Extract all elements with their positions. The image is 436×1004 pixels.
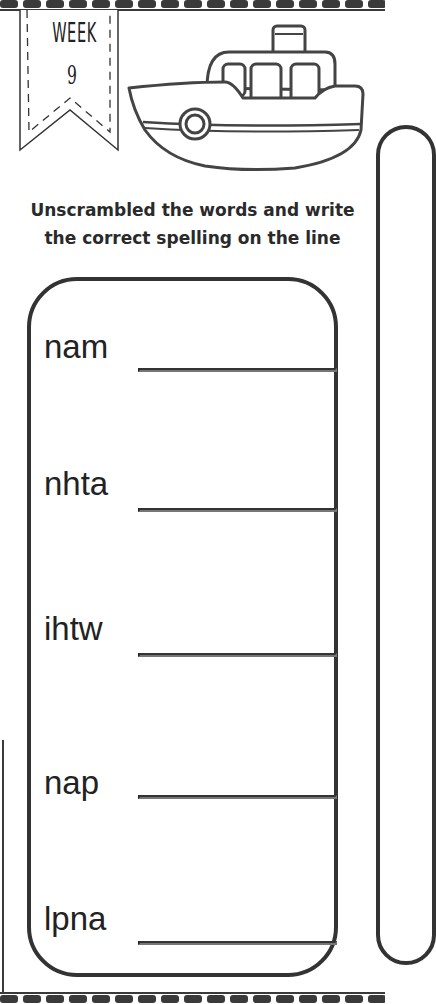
word-row: lpna [44,900,334,960]
week-number: 9 [53,60,91,90]
bottom-dashed-border [0,995,385,1004]
word-card: nam nhta ihtw nap lpna [27,277,338,977]
boat-illustration [125,20,365,175]
scrambled-word: lpna [44,900,106,938]
word-row: ihtw [44,610,334,670]
answer-line[interactable] [138,653,337,657]
answer-line[interactable] [138,508,337,512]
week-label: WEEK [52,18,92,48]
instructions-line-1: Unscrambled the words and write [0,196,385,224]
word-row: nap [44,764,334,824]
instructions: Unscrambled the words and write the corr… [0,196,385,252]
word-row: nam [44,328,334,388]
left-border-line [2,740,4,992]
scrambled-word: nam [44,328,108,366]
boat-icon [125,20,365,175]
answer-line[interactable] [138,795,337,799]
answer-line[interactable] [138,941,337,945]
scrambled-word: ihtw [44,610,103,648]
scrambled-word: nhta [44,465,108,503]
word-row: nhta [44,465,334,525]
instructions-line-2: the correct spelling on the line [0,224,385,252]
answer-line[interactable] [138,368,337,372]
scrambled-word: nap [44,764,99,802]
side-card-edge [376,125,436,965]
bottom-border-line [0,992,385,994]
